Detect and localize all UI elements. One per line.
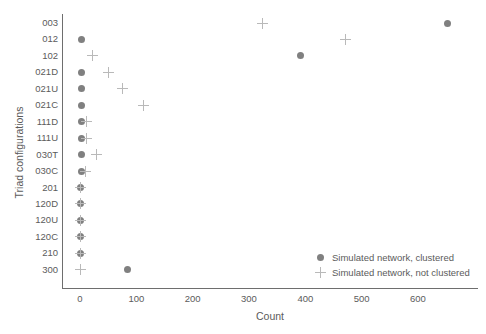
data-point [77,233,84,240]
data-point [78,118,85,125]
y-axis-tick-label: 030T [18,150,58,160]
data-point [77,250,84,257]
plot-area [0,0,486,334]
chart-legend: Simulated network, clustered Simulated n… [312,250,480,282]
x-axis-tick-label: 400 [285,293,325,305]
data-point [75,182,86,193]
data-point [77,184,84,191]
x-axis-tick-label: 200 [173,293,213,305]
data-point [78,69,85,76]
scatter-chart: Triad configurations 003012102021D021U02… [0,0,486,334]
plus-marker-icon [312,265,328,280]
data-point [138,100,149,111]
y-axis-tick-label: 120U [18,215,58,225]
data-point [78,135,85,142]
data-point [75,264,86,275]
x-axis-tick-label: 100 [116,293,156,305]
data-point [444,20,451,27]
y-axis-line [62,14,63,288]
data-point [81,133,92,144]
data-point [87,50,98,61]
x-axis-tick-label: 600 [398,293,438,305]
legend-item-clustered[interactable]: Simulated network, clustered [312,250,480,265]
y-axis-tick-label: 300 [18,265,58,275]
legend-item-label: Simulated network, not clustered [332,266,470,279]
x-axis-tick-label: 300 [229,293,269,305]
legend-item-label: Simulated network, clustered [332,251,454,264]
data-point [75,231,86,242]
x-axis-title: Count [62,310,478,322]
y-axis-tick-label: 102 [18,51,58,61]
data-point [340,34,351,45]
y-axis-tick-label: 030C [18,166,58,176]
data-point [78,168,85,175]
data-point [77,217,84,224]
data-point [75,215,86,226]
y-axis-tick-label: 210 [18,248,58,258]
y-axis-tick-label: 021C [18,100,58,110]
y-axis-tick-labels: 003012102021D021U021C111D111U030T030C201… [18,16,58,282]
y-axis-tick-label: 111D [18,117,58,127]
data-point [117,83,128,94]
data-point [80,166,91,177]
data-point [103,67,114,78]
y-axis-tick-label: 120D [18,199,58,209]
data-point [91,149,102,160]
data-point [78,151,85,158]
data-point [81,116,92,127]
data-point [78,36,85,43]
y-axis-tick-label: 012 [18,34,58,44]
x-axis-tick-label: 0 [60,293,100,305]
x-axis-tick-label: 500 [342,293,382,305]
y-axis-tick-label: 021U [18,84,58,94]
y-axis-tick-label: 201 [18,183,58,193]
y-axis-tick-label: 003 [18,18,58,28]
data-point [124,266,131,273]
data-point [75,248,86,259]
data-point [257,18,268,29]
y-axis-tick-label: 111U [18,133,58,143]
data-point [77,200,84,207]
data-point [75,198,86,209]
x-axis-tick-labels: 0100200300400500600 [0,293,486,307]
y-axis-tick-label: 021D [18,67,58,77]
circle-marker-icon [312,250,328,265]
legend-item-not-clustered[interactable]: Simulated network, not clustered [312,265,480,280]
data-point [78,102,85,109]
data-point [297,52,304,59]
x-axis-line [62,288,478,289]
data-point [78,85,85,92]
y-axis-tick-label: 120C [18,232,58,242]
